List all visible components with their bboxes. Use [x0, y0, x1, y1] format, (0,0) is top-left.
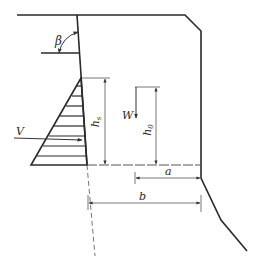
svg-text:h0: h0: [141, 124, 155, 136]
v-label: V: [16, 125, 25, 138]
w-label: W: [122, 109, 135, 122]
top-and-right-outline: [17, 15, 247, 251]
hs-label: hs: [89, 116, 103, 127]
cross-section-diagram: β V hs W h0 a b: [0, 0, 265, 266]
triangle-hatching: [37, 86, 86, 156]
beta-label: β: [54, 34, 62, 48]
b-label: b: [139, 190, 146, 203]
a-label: a: [165, 165, 172, 178]
h0-label: h0: [141, 124, 155, 136]
svg-text:hs: hs: [89, 116, 103, 127]
wall-extension-dashed: [87, 165, 95, 256]
v-force-arrow: [14, 138, 82, 140]
load-triangle: [31, 78, 87, 165]
